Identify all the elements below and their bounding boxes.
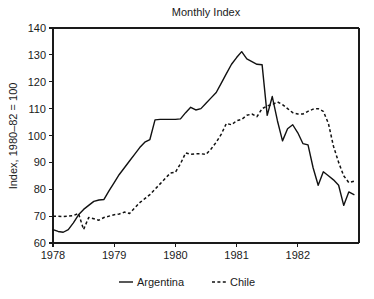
x-tick-label: 1978 bbox=[41, 249, 65, 261]
chart-title: Monthly Index bbox=[172, 6, 241, 18]
y-tick-label: 70 bbox=[34, 210, 46, 222]
data-series-layer bbox=[53, 52, 354, 233]
plot-frame bbox=[53, 28, 359, 243]
y-tick-label: 60 bbox=[34, 237, 46, 249]
legend-label-argentina: Argentina bbox=[137, 276, 185, 288]
x-tick-label: 1981 bbox=[224, 249, 248, 261]
chart-figure: Monthly Index Index, 1980–82 = 100 60708… bbox=[0, 0, 374, 299]
x-tick-label: 1979 bbox=[102, 249, 126, 261]
y-tick-label: 140 bbox=[28, 22, 46, 34]
y-tick-label: 80 bbox=[34, 183, 46, 195]
y-tick-label: 120 bbox=[28, 76, 46, 88]
y-tick-label: 90 bbox=[34, 156, 46, 168]
y-tick-label: 110 bbox=[28, 103, 46, 115]
chart-legend: Argentina Chile bbox=[119, 276, 255, 288]
x-tick-label: 1982 bbox=[286, 249, 310, 261]
y-axis-title: Index, 1980–82 = 100 bbox=[7, 83, 19, 190]
legend-label-chile: Chile bbox=[230, 276, 255, 288]
series-line-chile bbox=[53, 102, 354, 230]
series-line-argentina bbox=[53, 52, 354, 233]
y-tick-label: 100 bbox=[28, 130, 46, 142]
y-axis-ticks: 60708090100110120130140 bbox=[28, 22, 53, 249]
x-tick-label: 1980 bbox=[163, 249, 187, 261]
x-axis-ticks: 19781979198019811982 bbox=[41, 243, 310, 261]
monthly-index-line-chart: Monthly Index Index, 1980–82 = 100 60708… bbox=[0, 0, 374, 299]
y-tick-label: 130 bbox=[28, 49, 46, 61]
